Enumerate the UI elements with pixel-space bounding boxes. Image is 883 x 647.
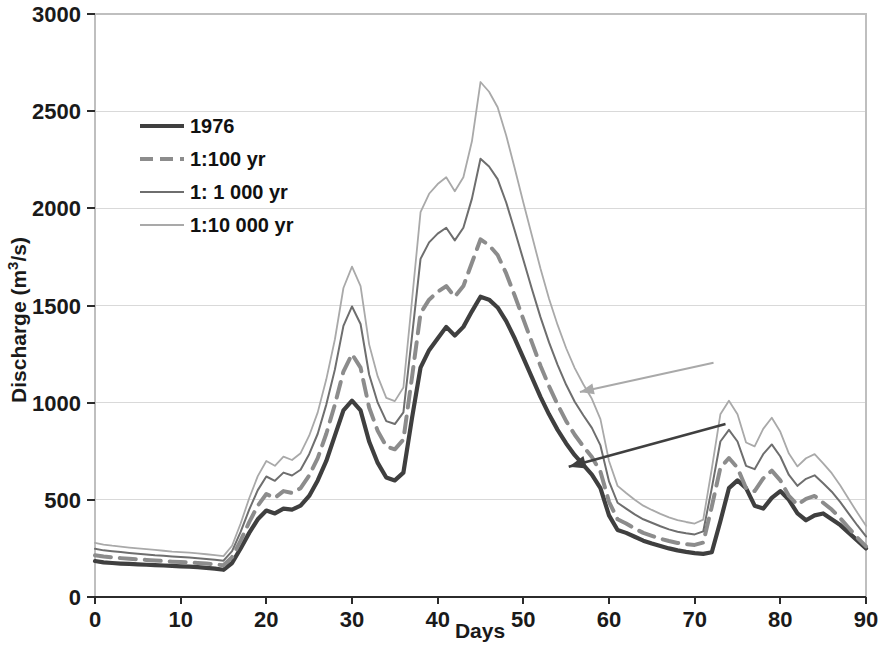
- x-tick-label-0: 0: [89, 607, 101, 632]
- x-tick-label-50: 50: [511, 607, 535, 632]
- y-tick-label-1000: 1000: [32, 391, 81, 416]
- y-axis-title-main: Discharge (m: [7, 270, 30, 403]
- y-axis-title: Discharge (m3/s): [4, 237, 30, 403]
- y-axis-title-superscript: 3: [4, 262, 21, 270]
- y-tick-label-500: 500: [44, 488, 81, 513]
- x-tick-label-20: 20: [254, 607, 278, 632]
- y-tick-label-1500: 1500: [32, 294, 81, 319]
- y-tick-label-2500: 2500: [32, 99, 81, 124]
- x-tick-label-30: 30: [340, 607, 364, 632]
- x-tick-label-90: 90: [854, 607, 878, 632]
- x-tick-label-70: 70: [682, 607, 706, 632]
- y-axis-title-tail: /s): [7, 237, 30, 262]
- chart-container: 0102030405060708090 05001000150020002500…: [0, 0, 883, 647]
- discharge-hydrograph-chart: 0102030405060708090 05001000150020002500…: [0, 0, 883, 647]
- legend-label-1-100-yr: 1:100 yr: [190, 148, 266, 170]
- x-axis-title: Days: [455, 619, 505, 642]
- legend-label-1976: 1976: [190, 115, 235, 137]
- chart-background: [0, 0, 883, 647]
- y-tick-label-3000: 3000: [32, 2, 81, 27]
- svg-text:Discharge (m3/s): Discharge (m3/s): [4, 237, 30, 403]
- x-tick-label-60: 60: [597, 607, 621, 632]
- legend-label-1-1-000-yr: 1: 1 000 yr: [190, 181, 288, 203]
- x-tick-label-40: 40: [425, 607, 449, 632]
- y-tick-label-2000: 2000: [32, 196, 81, 221]
- x-tick-label-10: 10: [168, 607, 192, 632]
- x-tick-label-80: 80: [768, 607, 792, 632]
- y-tick-label-0: 0: [69, 585, 81, 610]
- legend-label-1-10-000-yr: 1:10 000 yr: [190, 214, 294, 236]
